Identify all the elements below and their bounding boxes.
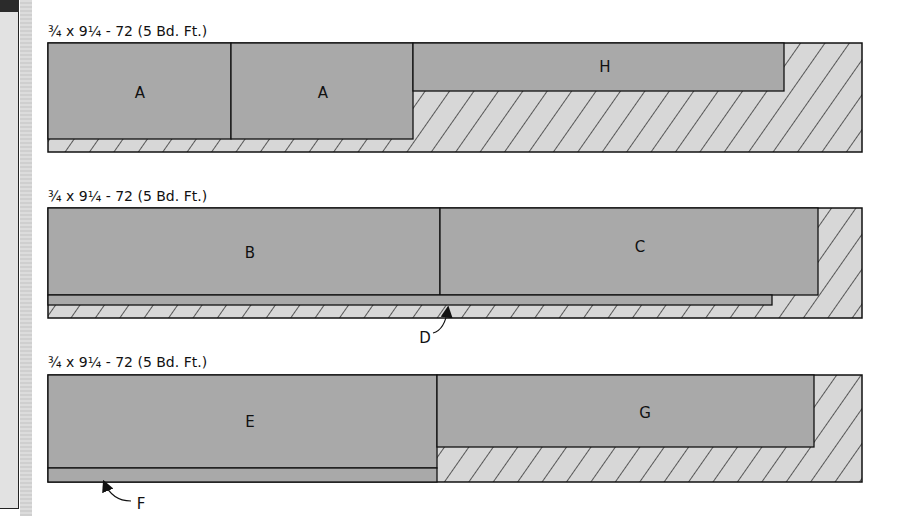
board-2: B C D (48, 208, 862, 347)
piece-a-1-label: A (135, 84, 146, 102)
board-3: E G F (48, 375, 862, 513)
piece-c-label: C (635, 238, 645, 256)
piece-e (48, 375, 437, 468)
piece-h-label: H (599, 58, 610, 76)
piece-a-2-label: A (318, 84, 329, 102)
piece-c (440, 208, 818, 295)
piece-d (48, 295, 772, 305)
piece-g (437, 375, 814, 447)
piece-b-label: B (245, 244, 255, 262)
callout-d-label: D (419, 329, 431, 347)
piece-f (48, 468, 437, 482)
cutting-diagram: A A H B C D E G F (0, 0, 901, 516)
callout-f-label: F (137, 495, 146, 513)
piece-g-label: G (639, 404, 651, 422)
piece-e-label: E (245, 413, 254, 431)
callout-f-arrow (104, 482, 131, 501)
board-1: A A H (48, 43, 862, 152)
